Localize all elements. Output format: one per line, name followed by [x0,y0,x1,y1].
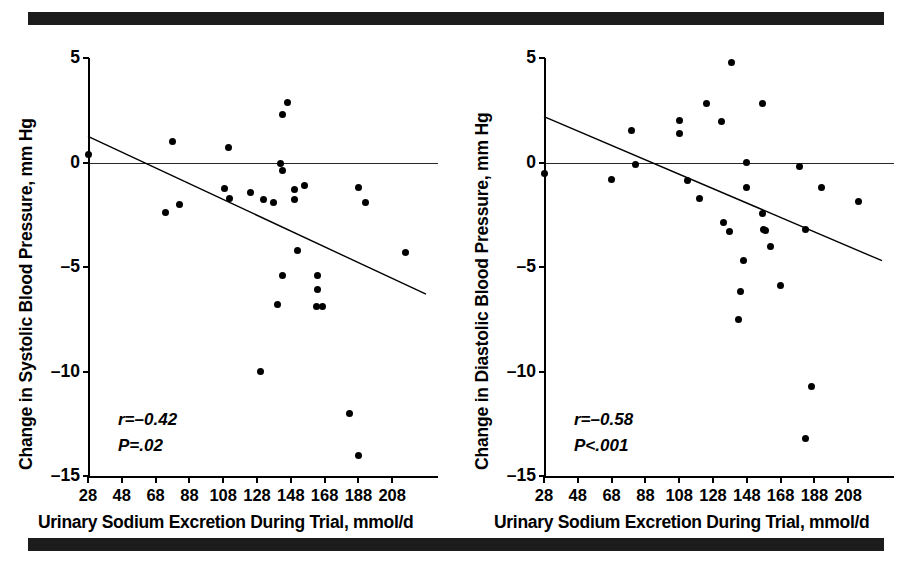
data-point [728,59,735,66]
data-point [279,111,286,118]
data-point [737,288,744,295]
data-point [291,196,298,203]
data-point [684,177,691,184]
data-point [696,195,703,202]
data-point [632,161,639,168]
plot-area-systolic: 50–5–10–1528486888108128148168188208Chan… [0,0,456,563]
y-axis-label: Change in Systolic Blood Pressure, mm Hg [16,118,37,470]
annotation-correlation: r=–0.42 [118,410,177,430]
data-point [855,198,862,205]
data-point [226,195,233,202]
data-point [735,316,742,323]
regression-line [456,0,912,563]
data-point [676,130,683,137]
y-axis-label: Change in Diastolic Blood Pressure, mm H… [472,113,493,470]
annotation-pvalue: P<.001 [574,436,628,456]
data-point [818,184,825,191]
data-point [176,201,183,208]
annotation-correlation: r=–0.58 [574,410,633,430]
data-point [676,117,683,124]
data-point [720,219,727,226]
data-point [355,452,362,459]
data-point [608,176,615,183]
data-point [355,184,362,191]
annotation-pvalue: P=.02 [118,436,163,456]
data-point [85,151,92,158]
data-point [257,368,264,375]
data-point [301,182,308,189]
panel-systolic: 50–5–10–1528486888108128148168188208Chan… [0,0,456,563]
data-point [274,301,281,308]
data-point [279,272,286,279]
x-axis-label: Urinary Sodium Excretion During Trial, m… [38,512,413,533]
regression-line [0,0,456,563]
data-point [762,227,769,234]
data-point [796,163,803,170]
plot-area-diastolic: 50–5–10–1528486888108128148168188208Chan… [456,0,912,563]
data-point [291,186,298,193]
data-point [628,127,635,134]
data-point [260,196,267,203]
data-point [294,247,301,254]
x-axis-label: Urinary Sodium Excretion During Trial, m… [494,512,869,533]
data-point [767,243,774,250]
data-point [362,199,369,206]
panel-diastolic: 50–5–10–1528486888108128148168188208Chan… [456,0,912,563]
data-point [247,189,254,196]
data-point [808,383,815,390]
data-point [759,210,766,217]
